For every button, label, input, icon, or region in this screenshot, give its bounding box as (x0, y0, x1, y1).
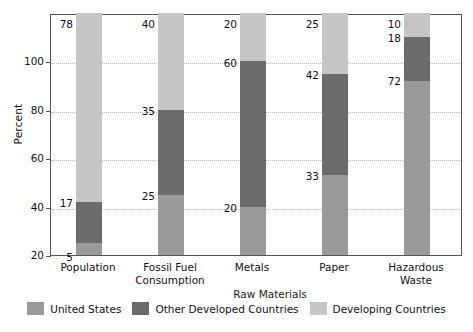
legend-label-developing-countries: Developing Countries (333, 303, 446, 315)
bar-segment-fossil-fuel-other-developed (158, 110, 184, 195)
bracket-label-text: Raw Materials (229, 288, 311, 300)
legend-label-other-developed-countries: Other Developed Countries (155, 303, 298, 315)
value-label-population-dev: 78 (43, 18, 73, 30)
value-label-metals-us: 20 (207, 202, 237, 214)
bar-segment-population-other-developed (76, 202, 102, 243)
y-tick-label-40: 40 (0, 201, 44, 213)
value-label-metals-od: 60 (207, 57, 237, 69)
bar-hazardous-waste (404, 13, 430, 255)
legend-item-developing-countries: Developing Countries (310, 302, 446, 315)
value-label-population-od: 17 (43, 197, 73, 209)
value-label-hazardous-waste-od: 18 (371, 32, 401, 44)
bar-paper (322, 13, 348, 255)
y-tick-label-80: 80 (0, 104, 44, 116)
legend-swatch-united-states (27, 302, 44, 315)
bar-segment-metals-developing (240, 13, 266, 61)
value-label-fossil-fuel-od: 35 (125, 105, 155, 117)
bar-segment-fossil-fuel-developing (158, 13, 184, 110)
bar-fossil-fuel-consumption (158, 13, 184, 255)
bar-segment-metals-other-developed (240, 61, 266, 206)
value-label-paper-od: 42 (289, 69, 319, 81)
value-label-paper-us: 33 (289, 170, 319, 182)
bracket-label-wrap: Raw Materials (196, 288, 344, 300)
x-axis-label-hazardous-waste: Hazardous Waste (356, 261, 473, 287)
legend-swatch-other-developed-countries (132, 302, 149, 315)
legend-item-united-states: United States (27, 302, 121, 315)
bar-segment-population-united-states (76, 243, 102, 255)
bar-population (76, 13, 102, 255)
bar-segment-hazardous-waste-united-states (404, 81, 430, 255)
bar-segment-hazardous-waste-other-developed (404, 37, 430, 81)
value-label-hazardous-waste-us: 72 (371, 75, 401, 87)
y-tick-label-20: 20 (0, 249, 44, 261)
value-label-metals-dev: 20 (207, 18, 237, 30)
bar-segment-population-developing (76, 13, 102, 202)
value-label-fossil-fuel-dev: 40 (125, 18, 155, 30)
bar-metals (240, 13, 266, 255)
bar-segment-paper-other-developed (322, 74, 348, 176)
legend-item-other-developed-countries: Other Developed Countries (132, 302, 298, 315)
value-label-paper-dev: 25 (289, 18, 319, 30)
bar-segment-hazardous-waste-developing (404, 13, 430, 37)
legend-swatch-developing-countries (310, 302, 327, 315)
y-tick-label-60: 60 (0, 152, 44, 164)
y-tick-label-100: 100 (0, 55, 44, 67)
value-label-fossil-fuel-us: 25 (125, 190, 155, 202)
bar-segment-paper-developing (322, 13, 348, 74)
legend-label-united-states: United States (50, 303, 121, 315)
plot-area: 5 17 78 25 35 40 20 60 20 33 42 25 (50, 14, 462, 256)
bar-segment-paper-united-states (322, 175, 348, 255)
bar-segment-fossil-fuel-united-states (158, 195, 184, 256)
legend: United States Other Developed Countries … (0, 302, 473, 315)
value-label-hazardous-waste-dev: 10 (371, 18, 401, 30)
bar-segment-metals-united-states (240, 207, 266, 255)
stacked-bar-chart: Percent 20 40 60 80 100 5 17 78 25 35 4 (0, 0, 473, 332)
